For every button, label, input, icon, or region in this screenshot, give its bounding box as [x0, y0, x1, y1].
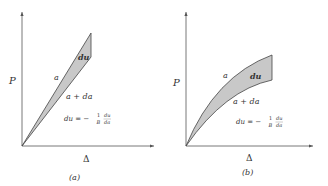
formula-lhs: du = − — [236, 118, 261, 126]
formula-den2: da — [104, 119, 110, 125]
formula: du = − 1 B du da — [64, 112, 111, 125]
formula-num2: du — [104, 112, 110, 118]
area-label: du — [78, 52, 90, 62]
panel-a: P Δ (a) du a a + da du = − 1 B du da — [8, 12, 154, 182]
caption: (b) — [242, 168, 253, 177]
caption: (a) — [69, 173, 80, 182]
y-axis-label: P — [8, 75, 16, 86]
x-axis-label: Δ — [246, 153, 253, 163]
formula-den1: B — [96, 119, 101, 125]
formula-num1: 1 — [269, 115, 272, 121]
x-axis-label: Δ — [83, 154, 90, 164]
area-label: du — [250, 71, 262, 81]
formula-num1: 1 — [97, 112, 100, 118]
curve-upper-label: a — [223, 71, 228, 80]
curve-lower-label: a + da — [66, 92, 93, 101]
panel-b: P Δ (b) du a a + da du = − 1 B du da — [172, 12, 313, 177]
diagram-canvas: P Δ (a) du a a + da du = − 1 B du da P Δ… — [0, 0, 328, 186]
formula-num2: du — [276, 115, 282, 121]
formula-lhs: du = − — [64, 115, 89, 123]
curve-lower-label: a + da — [233, 97, 260, 106]
formula-den2: da — [276, 122, 282, 128]
energy-area — [22, 33, 91, 146]
y-axis-label: P — [172, 77, 180, 88]
formula: du = − 1 B du da — [236, 115, 283, 128]
formula-den1: B — [268, 122, 273, 128]
curve-upper-label: a — [54, 73, 59, 82]
